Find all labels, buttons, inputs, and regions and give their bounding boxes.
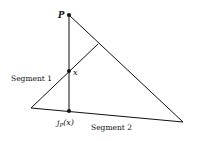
line-p-to-bottom-right <box>69 15 183 122</box>
point-x-dot <box>67 69 71 73</box>
point-p-label: P <box>57 10 65 20</box>
diagram-canvas: P x Segment 1 Segment 2 jP(x) <box>0 0 197 141</box>
point-p-dot <box>67 13 71 17</box>
segment-2-label: Segment 2 <box>91 123 132 132</box>
point-jp-dot <box>67 109 71 113</box>
point-jp-label: jP(x) <box>55 118 74 128</box>
segment-2-line <box>31 108 183 122</box>
point-x-label: x <box>73 68 78 77</box>
segment-1-label: Segment 1 <box>11 74 52 83</box>
jp-label-arg: (x) <box>63 118 74 127</box>
